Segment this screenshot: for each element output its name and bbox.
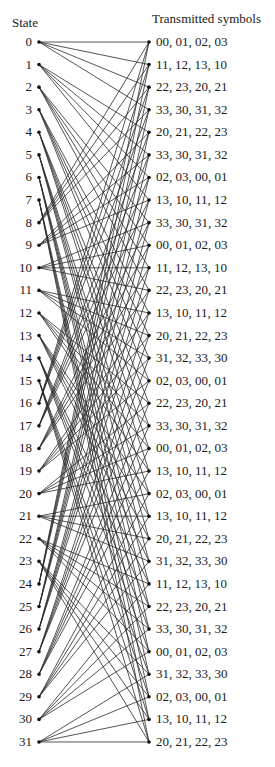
state-label: 0 xyxy=(2,35,32,49)
state-label: 19 xyxy=(2,464,32,478)
next-state-node xyxy=(147,582,151,586)
state-label: 31 xyxy=(2,735,32,749)
transmitted-symbol-label: 22, 23, 20, 21 xyxy=(156,600,228,614)
transmitted-symbol-label: 02, 03, 00, 01 xyxy=(156,690,228,704)
state-node xyxy=(37,311,41,315)
state-label: 2 xyxy=(2,80,32,94)
state-node xyxy=(37,176,41,180)
state-node xyxy=(37,469,41,473)
state-node xyxy=(37,560,41,564)
transmitted-symbol-label: 20, 21, 22, 23 xyxy=(156,329,228,343)
trellis-branch xyxy=(39,629,149,719)
state-node xyxy=(37,672,41,676)
next-state-node xyxy=(147,627,151,631)
next-state-node xyxy=(147,695,151,699)
next-state-node xyxy=(147,718,151,722)
state-node xyxy=(37,537,41,541)
state-label: 10 xyxy=(2,261,32,275)
state-node xyxy=(37,40,41,44)
state-label: 25 xyxy=(2,600,32,614)
next-state-node xyxy=(147,85,151,89)
transmitted-symbol-label: 02, 03, 00, 01 xyxy=(156,374,228,388)
state-node xyxy=(37,379,41,383)
state-node xyxy=(37,718,41,722)
state-label: 15 xyxy=(2,374,32,388)
state-label: 28 xyxy=(2,667,32,681)
state-node xyxy=(37,740,41,744)
trellis-branch xyxy=(39,697,149,742)
transmitted-symbol-label: 31, 32, 33, 30 xyxy=(156,351,228,365)
transmitted-symbol-label: 33, 30, 31, 32 xyxy=(156,419,228,433)
state-label: 11 xyxy=(2,283,32,297)
state-label: 20 xyxy=(2,487,32,501)
state-label: 21 xyxy=(2,509,32,523)
state-label: 27 xyxy=(2,645,32,659)
next-state-node xyxy=(147,198,151,202)
trellis-branch xyxy=(39,494,149,697)
next-state-node xyxy=(147,221,151,225)
state-node xyxy=(37,221,41,225)
state-nodes xyxy=(37,40,41,744)
state-node xyxy=(37,650,41,654)
state-node xyxy=(37,514,41,518)
state-column-title: State xyxy=(12,15,38,31)
state-node xyxy=(37,198,41,202)
state-label: 6 xyxy=(2,170,32,184)
next-state-node xyxy=(147,740,151,744)
state-node xyxy=(37,627,41,631)
trellis-branch xyxy=(39,155,149,245)
transmitted-symbol-label: 00, 01, 02, 03 xyxy=(156,441,228,455)
state-label: 24 xyxy=(2,577,32,591)
trellis-branch xyxy=(39,42,149,65)
trellis-branch xyxy=(39,719,149,742)
next-state-node xyxy=(147,108,151,112)
state-node xyxy=(37,492,41,496)
trellis-branch xyxy=(39,268,149,629)
transmitted-symbol-label: 33, 30, 31, 32 xyxy=(156,103,228,117)
next-state-node xyxy=(147,243,151,247)
state-node xyxy=(37,243,41,247)
transmitted-symbol-label: 02, 03, 00, 01 xyxy=(156,170,228,184)
next-state-node xyxy=(147,153,151,157)
state-node xyxy=(37,334,41,338)
next-state-node xyxy=(147,560,151,564)
transmitted-symbol-label: 31, 32, 33, 30 xyxy=(156,667,228,681)
state-label: 9 xyxy=(2,238,32,252)
trellis-branch xyxy=(39,110,149,223)
next-state-node xyxy=(147,40,151,44)
transmitted-symbol-label: 13, 10, 11, 12 xyxy=(156,712,227,726)
state-label: 5 xyxy=(2,148,32,162)
trellis-branch xyxy=(39,607,149,720)
next-state-node xyxy=(147,334,151,338)
next-state-node xyxy=(147,131,151,135)
transmitted-symbol-label: 22, 23, 20, 21 xyxy=(156,396,228,410)
transmitted-symbol-label: 33, 30, 31, 32 xyxy=(156,622,228,636)
state-label: 30 xyxy=(2,712,32,726)
transmitted-symbol-label: 13, 10, 11, 12 xyxy=(156,193,227,207)
next-state-node xyxy=(147,379,151,383)
state-node xyxy=(37,401,41,405)
state-label: 22 xyxy=(2,532,32,546)
next-state-node xyxy=(147,469,151,473)
trellis-branch xyxy=(39,132,149,245)
state-label: 23 xyxy=(2,554,32,568)
state-node xyxy=(37,289,41,293)
next-state-node xyxy=(147,672,151,676)
trellis-branch xyxy=(39,539,149,629)
state-label: 18 xyxy=(2,441,32,455)
state-node xyxy=(37,63,41,67)
state-node xyxy=(37,153,41,157)
transmitted-symbol-label: 22, 23, 20, 21 xyxy=(156,283,228,297)
transmitted-symbol-label: 00, 01, 02, 03 xyxy=(156,645,228,659)
transmitted-symbol-label: 31, 32, 33, 30 xyxy=(156,554,228,568)
transmitted-symbol-label: 20, 21, 22, 23 xyxy=(156,532,228,546)
transmitted-symbol-label: 33, 30, 31, 32 xyxy=(156,148,228,162)
transmitted-symbol-label: 13, 10, 11, 12 xyxy=(156,464,227,478)
next-state-node xyxy=(147,537,151,541)
state-label: 4 xyxy=(2,125,32,139)
next-state-node xyxy=(147,356,151,360)
transmitted-symbol-label: 33, 30, 31, 32 xyxy=(156,216,228,230)
next-state-node xyxy=(147,266,151,270)
trellis-branch xyxy=(39,674,149,742)
trellis-branch xyxy=(39,87,149,584)
